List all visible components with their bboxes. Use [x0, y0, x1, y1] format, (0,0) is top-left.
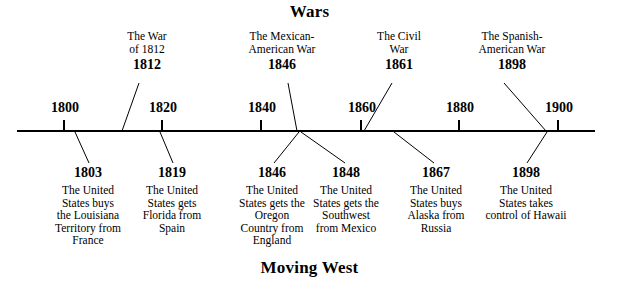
axis-tick-label: 1900: [529, 100, 589, 116]
event-description: The United States gets Florida from Spai…: [120, 184, 224, 234]
event-year: 1819: [120, 165, 224, 181]
timeline-axis: [17, 130, 595, 132]
war-year: 1861: [334, 57, 464, 73]
axis-tick-label: 1800: [35, 100, 95, 116]
event-description: The United States buys Alaska from Russi…: [384, 184, 488, 234]
event-connector-line: [527, 132, 547, 163]
event-entry: 1819The United States gets Florida from …: [120, 165, 224, 234]
axis-tick-label: 1880: [430, 100, 490, 116]
event-entry: 1898The United States takes control of H…: [474, 165, 578, 222]
event-year: 1848: [294, 165, 398, 181]
war-name: The Mexican- American War: [217, 30, 347, 55]
moving-west-section-title: Moving West: [0, 258, 619, 278]
event-connector-line: [394, 132, 434, 163]
war-entry: The War of 18121812: [82, 30, 212, 73]
timeline-figure: Wars 180018201840186018801900 The War of…: [0, 0, 619, 291]
axis-tick-mark: [360, 120, 362, 130]
event-description: The United States gets the Southwest fro…: [294, 184, 398, 234]
axis-tick-mark: [557, 120, 559, 130]
event-connector-line: [274, 132, 299, 163]
war-year: 1812: [82, 57, 212, 73]
war-entry: The Spanish- American War1898: [447, 30, 577, 73]
axis-tick-label: 1820: [133, 100, 193, 116]
war-name: The Civil War: [334, 30, 464, 55]
war-entry: The Civil War1861: [334, 30, 464, 73]
event-entry: 1848The United States gets the Southwest…: [294, 165, 398, 234]
event-connector-line: [160, 132, 173, 163]
event-year: 1867: [384, 165, 488, 181]
axis-tick-mark: [458, 120, 460, 130]
war-year: 1846: [217, 57, 347, 73]
war-entry: The Mexican- American War1846: [217, 30, 347, 73]
war-name: The Spanish- American War: [447, 30, 577, 55]
event-year: 1898: [474, 165, 578, 181]
war-name: The War of 1812: [82, 30, 212, 55]
axis-tick-label: 1860: [332, 100, 392, 116]
event-description: The United States takes control of Hawai…: [474, 184, 578, 222]
axis-tick-mark: [260, 120, 262, 130]
axis-tick-mark: [63, 120, 65, 130]
axis-tick-label: 1840: [232, 100, 292, 116]
event-connector-line: [75, 132, 89, 163]
event-connector-line: [301, 132, 345, 163]
axis-tick-mark: [161, 120, 163, 130]
war-year: 1898: [447, 57, 577, 73]
event-entry: 1867The United States buys Alaska from R…: [384, 165, 488, 234]
